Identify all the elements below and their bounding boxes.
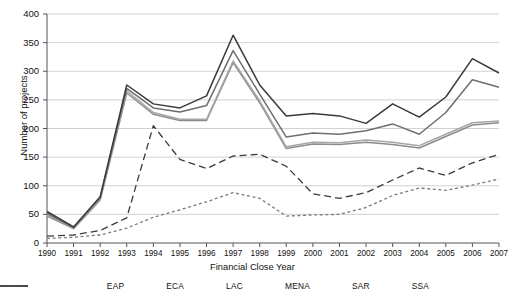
series-line-ssa bbox=[47, 35, 499, 227]
legend-item-sar[interactable]: SAR bbox=[321, 282, 370, 290]
legend-swatch-icon bbox=[195, 282, 223, 290]
legend-swatch-icon bbox=[381, 282, 409, 290]
series-line-eap bbox=[47, 179, 499, 239]
series-line-sar bbox=[47, 51, 499, 228]
legend-swatch-icon bbox=[321, 282, 349, 290]
legend-label: MENA bbox=[285, 282, 310, 290]
legend-swatch-icon bbox=[135, 282, 163, 290]
legend-item-mena[interactable]: MENA bbox=[254, 282, 310, 290]
series-line-lac bbox=[47, 63, 499, 229]
legend-swatch-icon bbox=[254, 282, 282, 290]
legend-item-ssa[interactable]: SSA bbox=[381, 282, 429, 290]
legend-item-eap[interactable]: EAP bbox=[76, 282, 124, 290]
legend-label: SSA bbox=[412, 282, 429, 290]
legend-item-lac[interactable]: LAC bbox=[195, 282, 243, 290]
chart-legend: EAPECALACMENASARSSA bbox=[0, 282, 505, 290]
series-line-mena bbox=[47, 61, 499, 228]
legend-label: ECA bbox=[166, 282, 184, 290]
legend-label: LAC bbox=[226, 282, 243, 290]
x-axis-title: Financial Close Year bbox=[0, 262, 505, 272]
legend-label: EAP bbox=[107, 282, 124, 290]
legend-swatch-icon bbox=[76, 282, 104, 290]
legend-item-eca[interactable]: ECA bbox=[135, 282, 184, 290]
legend-label: SAR bbox=[352, 282, 370, 290]
